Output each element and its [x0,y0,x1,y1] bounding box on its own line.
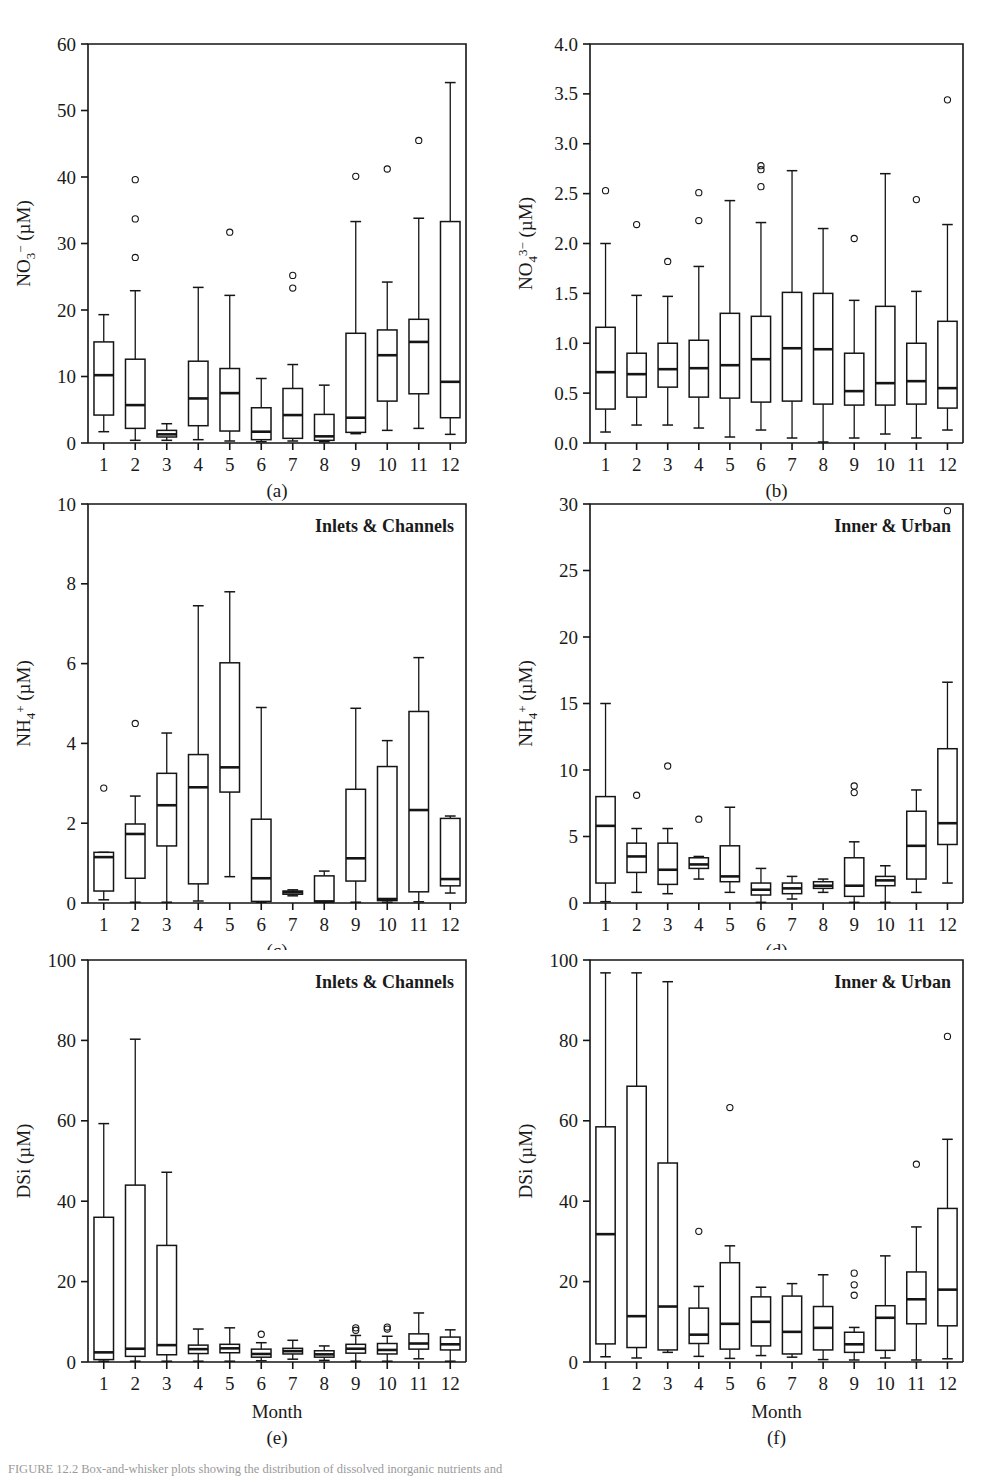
x-tick-label-month: 8 [818,1373,828,1394]
box-plot-item [94,785,114,900]
x-tick-label-month: 10 [378,1373,397,1394]
x-tick-label-month: 6 [756,454,766,475]
box-plot-item [220,229,240,441]
x-tick-label-month: 7 [288,1373,298,1394]
box-plot-svg: 020406080100123456789101112Inlets & Chan… [0,920,496,1450]
y-axis-label: NH4+ (µM) [515,660,540,747]
y-tick-label: 40 [57,167,76,188]
outlier-point [132,720,138,726]
box-plot-item [658,258,677,425]
panel-a: 0102030405060123456789101112NO3− (µM)(a) [0,20,496,500]
x-tick-label-month: 4 [194,1373,204,1394]
panel-b: 0.00.51.01.52.02.53.03.54.01234567891011… [497,20,993,500]
x-tick-label-month: 1 [601,1373,611,1394]
outlier-point [758,184,764,190]
x-tick-label-month: 6 [756,1373,766,1394]
x-tick-label-month: 12 [441,1373,460,1394]
box-plot-item [720,201,739,437]
x-tick-label-month: 8 [320,1373,330,1394]
box-plot-svg: 0246810123456789101112Inlets & ChannelsN… [0,480,496,950]
outlier-point [913,197,919,203]
y-tick-label: 100 [48,950,77,971]
x-tick-label-month: 1 [601,454,611,475]
panel-id-label: (e) [266,1427,287,1449]
box-plot-item [283,890,303,896]
outlier-point [851,1270,857,1276]
x-tick-label-month: 10 [378,454,397,475]
box-plot-item [782,876,801,899]
y-tick-label: 50 [57,100,76,121]
y-tick-label: 30 [559,494,578,515]
box-plot-item [938,97,957,430]
box-plot-item [188,1329,208,1361]
y-axis-ticks: 0102030405060 [57,34,88,454]
box-plot-item [377,1324,397,1361]
outlier-point [227,229,233,235]
y-tick-label: 0 [67,433,77,454]
x-axis-ticks: 123456789101112 [601,443,957,475]
x-tick-label-month: 9 [849,1373,859,1394]
outlier-point [290,272,296,278]
x-axis-ticks: 123456789101112 [601,1362,957,1394]
y-tick-label: 15 [559,693,578,714]
y-tick-label: 100 [550,950,579,971]
outlier-point [696,217,702,223]
x-tick-label-month: 7 [288,454,298,475]
y-tick-label: 20 [559,627,578,648]
x-axis-label: Month [751,1401,802,1422]
y-tick-label: 0 [569,1352,579,1373]
y-tick-label: 10 [57,494,76,515]
x-tick-label-month: 6 [257,454,267,475]
box-plot-item [876,1256,895,1358]
y-axis-label: DSi (µM) [13,1124,35,1199]
outlier-point [944,1033,950,1039]
panel-f: 020406080100123456789101112Inner & Urban… [497,920,993,1420]
x-tick-label-month: 7 [787,1373,797,1394]
y-tick-label: 10 [559,760,578,781]
box-plot-item [689,816,708,879]
x-tick-label-month: 5 [725,1373,735,1394]
y-tick-label: 2 [67,813,77,834]
y-tick-label: 2.5 [554,183,578,204]
box-plot-item [94,1124,114,1362]
y-tick-label: 60 [57,34,76,55]
box-plot-svg: 051015202530123456789101112Inner & Urban… [497,480,993,950]
panel-title: Inner & Urban [834,972,951,992]
box-plot-item [125,177,145,441]
y-tick-label: 80 [559,1030,578,1051]
box-plot-item [346,708,366,902]
box-plot-item [813,1275,832,1360]
x-axis-ticks: 123456789101112 [99,443,460,475]
box-plot-item [157,1172,177,1361]
box-plot-item [720,1104,739,1358]
outlier-point [944,508,950,514]
x-tick-label-month: 3 [663,1373,673,1394]
x-axis-label: Month [252,1401,303,1422]
x-tick-label-month: 5 [225,454,235,475]
box-plot-item [125,1039,145,1361]
box-plot-svg: 0102030405060123456789101112NO3− (µM)(a) [0,20,496,530]
box-plot-item [627,221,646,425]
box-plot-item [188,606,208,901]
x-tick-label-month: 10 [876,454,895,475]
box-plot-item [907,197,926,439]
y-tick-label: 20 [57,1271,76,1292]
box-plot-item [314,385,334,442]
x-tick-label-month: 10 [876,1373,895,1394]
y-tick-label: 6 [67,653,77,674]
box-plot-item [845,235,864,438]
outlier-point [851,1292,857,1298]
y-axis-label: NH4+ (µM) [13,660,38,747]
x-tick-label-month: 9 [351,454,361,475]
box-plot-item [627,973,646,1358]
y-tick-label: 30 [57,233,76,254]
y-tick-label: 20 [559,1271,578,1292]
y-tick-label: 3.0 [554,133,578,154]
x-tick-label-month: 3 [162,1373,172,1394]
y-tick-label: 60 [559,1110,578,1131]
outlier-point [696,1228,702,1234]
y-tick-label: 2.0 [554,233,578,254]
box-plot-item [440,1330,460,1361]
x-tick-label-month: 4 [694,1373,704,1394]
box-plot-item [813,879,832,892]
